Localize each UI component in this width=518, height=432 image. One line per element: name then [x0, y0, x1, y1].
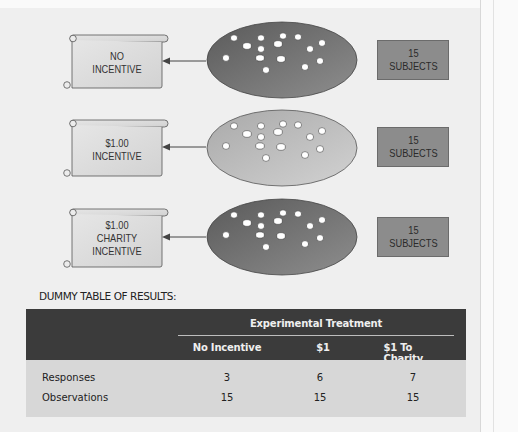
- subjects-box: 15SUBJECTS: [377, 40, 449, 80]
- row-label: Observations: [42, 392, 108, 403]
- table-cell: 15: [314, 392, 327, 403]
- column-header: $1: [316, 342, 330, 353]
- arrowhead-icon: [162, 144, 170, 151]
- table-header: Experimental Treatment No Incentive $1 $…: [26, 309, 466, 360]
- outcome-label: $1.00 INCENTIVE: [77, 137, 156, 163]
- outcome-line: $1.00: [77, 219, 156, 232]
- subjects-count: 15: [408, 224, 418, 236]
- outcome-line: $1.00: [77, 137, 156, 150]
- header-rule: [178, 335, 454, 336]
- arrowhead-icon: [162, 58, 170, 65]
- column-header: No Incentive: [193, 342, 262, 353]
- subjects-box: 15SUBJECTS: [377, 217, 449, 257]
- subjects-count: 15: [408, 47, 418, 59]
- outcome-line: CHARITY: [77, 232, 156, 245]
- results-table: Experimental Treatment No Incentive $1 $…: [26, 309, 466, 417]
- table-cell: 15: [407, 392, 420, 403]
- outcome-label: NO INCENTIVE: [77, 50, 156, 76]
- table-body: Responses 3 6 7 Observations 15 15 15: [26, 360, 466, 417]
- subjects-box: 15SUBJECTS: [377, 127, 449, 167]
- group-header: Experimental Treatment: [250, 318, 382, 329]
- outcome-label: $1.00 CHARITY INCENTIVE: [77, 219, 156, 258]
- subjects-label: SUBJECTS: [389, 237, 437, 249]
- outcome-line: INCENTIVE: [77, 63, 156, 76]
- subjects-label: SUBJECTS: [389, 60, 437, 72]
- subjects-count: 15: [408, 134, 418, 146]
- outcome-line: NO: [77, 50, 156, 63]
- row-label: Responses: [42, 372, 95, 383]
- arrowhead-icon: [162, 234, 170, 241]
- table-cell: 3: [224, 372, 230, 383]
- table-cell: 7: [410, 372, 416, 383]
- table-caption: DUMMY TABLE OF RESULTS:: [39, 290, 176, 302]
- subjects-label: SUBJECTS: [389, 147, 437, 159]
- outcome-line: INCENTIVE: [77, 150, 156, 163]
- table-cell: 15: [221, 392, 234, 403]
- table-cell: 6: [317, 372, 323, 383]
- outcome-line: INCENTIVE: [77, 245, 156, 258]
